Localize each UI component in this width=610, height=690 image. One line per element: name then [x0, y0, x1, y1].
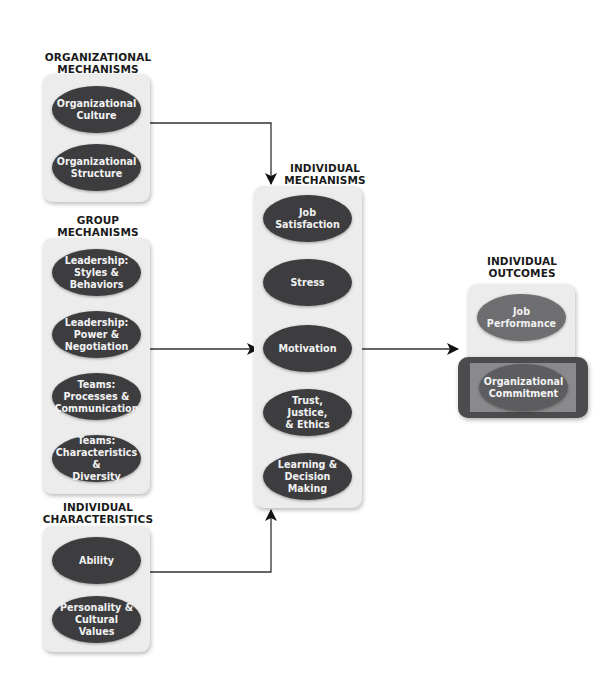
node-motivation[interactable]: Motivation [263, 325, 352, 372]
highlight-organizational-commitment: OrganizationalCommitment [458, 357, 588, 418]
panel-individual-mechanisms: JobSatisfaction Stress Motivation Trust,… [254, 186, 362, 508]
node-job-performance[interactable]: JobPerformance [477, 294, 566, 341]
node-organizational-structure[interactable]: OrganizationalStructure [52, 144, 141, 191]
heading-individual-mechanisms: INDIVIDUAL MECHANISMS [275, 162, 375, 186]
heading-line: INDIVIDUAL [275, 162, 375, 174]
heading-line: INDIVIDUAL [33, 501, 163, 513]
node-trust-justice-ethics[interactable]: Trust, Justice,& Ethics [263, 389, 352, 436]
panel-organizational-mechanisms: OrganizationalCulture OrganizationalStru… [43, 74, 150, 202]
node-personality-cultural-values[interactable]: Personality &Cultural Values [52, 596, 141, 643]
node-stress[interactable]: Stress [263, 259, 352, 306]
node-job-satisfaction[interactable]: JobSatisfaction [263, 195, 352, 242]
arrow-characteristics-to-individual-mechanisms [150, 510, 271, 572]
heading-line: MECHANISMS [38, 226, 158, 238]
heading-organizational-mechanisms: ORGANIZATIONAL MECHANISMS [38, 51, 158, 75]
node-teams-processes-communication[interactable]: Teams:Processes &Communication [52, 373, 141, 420]
node-learning-decision-making[interactable]: Learning &Decision Making [263, 453, 352, 500]
heading-line: INDIVIDUAL [472, 255, 572, 267]
panel-group-mechanisms: Leadership:Styles &Behaviors Leadership:… [43, 238, 150, 494]
node-organizational-culture[interactable]: OrganizationalCulture [52, 86, 141, 133]
heading-group-mechanisms: GROUP MECHANISMS [38, 214, 158, 238]
heading-line: OUTCOMES [472, 267, 572, 279]
heading-line: MECHANISMS [275, 174, 375, 186]
node-ability[interactable]: Ability [52, 537, 141, 584]
node-leadership-power-negotiation[interactable]: Leadership:Power &Negotiation [52, 311, 141, 358]
panel-individual-characteristics: Ability Personality &Cultural Values [43, 526, 150, 652]
node-leadership-styles-behaviors[interactable]: Leadership:Styles &Behaviors [52, 249, 141, 296]
heading-line: CHARACTERISTICS [33, 513, 163, 525]
node-organizational-commitment[interactable]: OrganizationalCommitment [479, 364, 568, 411]
heading-line: GROUP [38, 214, 158, 226]
arrow-org-to-individual-mechanisms [150, 123, 271, 184]
heading-line: ORGANIZATIONAL [38, 51, 158, 63]
heading-individual-characteristics: INDIVIDUAL CHARACTERISTICS [33, 501, 163, 525]
heading-individual-outcomes: INDIVIDUAL OUTCOMES [472, 255, 572, 279]
node-teams-characteristics-diversity[interactable]: Teams:Characteristics &Diversity [52, 435, 141, 482]
